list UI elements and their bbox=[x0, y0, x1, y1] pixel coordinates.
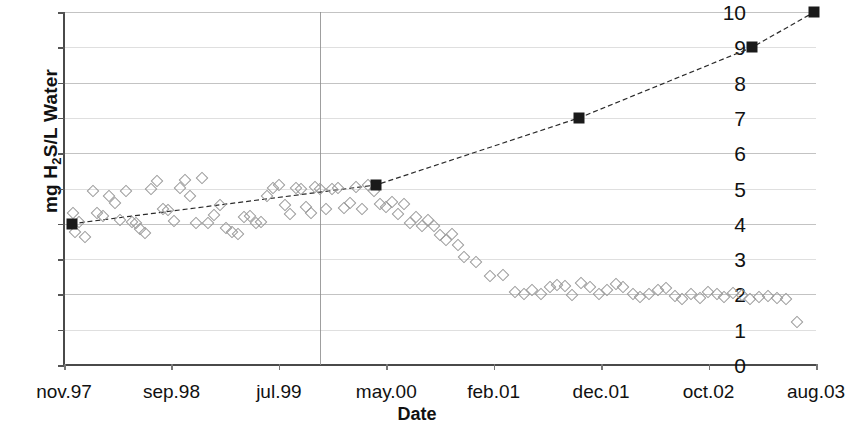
x-axis-tick-label: nov.97 bbox=[36, 382, 92, 401]
trend-marker bbox=[574, 112, 585, 123]
y-axis-title-subscript: 2 bbox=[49, 157, 64, 164]
x-axis-tick-label: sep.98 bbox=[143, 382, 200, 401]
trend-marker bbox=[66, 218, 77, 229]
x-axis-tick-mark bbox=[816, 364, 818, 370]
x-axis-tick-label: oct.02 bbox=[683, 382, 735, 401]
trend-marker bbox=[809, 7, 820, 18]
y-axis-title: mg H2S/L Water bbox=[40, 26, 62, 256]
plot-area: 012345678910 nov.97sep.98jul.99may.00feb… bbox=[64, 12, 816, 365]
x-axis-title: Date bbox=[0, 404, 834, 425]
x-axis-tick-label: aug.03 bbox=[787, 382, 845, 401]
x-axis-tick-label: dec.01 bbox=[573, 382, 630, 401]
trend-marker bbox=[371, 179, 382, 190]
x-axis-tick-label: may.00 bbox=[356, 382, 417, 401]
trend-marker bbox=[747, 42, 758, 53]
x-axis-tick-label: feb.01 bbox=[467, 382, 520, 401]
x-axis-tick-label: jul.99 bbox=[256, 382, 301, 401]
